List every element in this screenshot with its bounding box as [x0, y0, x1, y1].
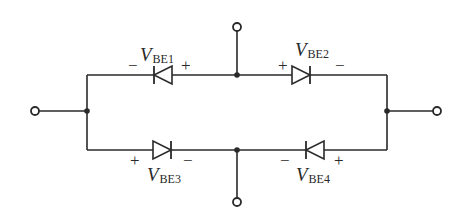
- junction-right: [384, 108, 390, 114]
- terminal-bottom: [233, 198, 241, 206]
- diode-bridge-circuit: VBE1 − + VBE2 + − VBE3 + − VBE4 − +: [0, 0, 466, 224]
- polarity-plus: +: [334, 151, 344, 170]
- polarity-minus: −: [280, 151, 290, 170]
- junction-top: [234, 72, 240, 78]
- diode-vbe2: VBE2 + −: [278, 39, 345, 84]
- terminal-top: [233, 23, 241, 31]
- diode-label: VBE3: [147, 164, 181, 186]
- diode-label: VBE2: [295, 39, 329, 61]
- polarity-minus: −: [128, 56, 138, 75]
- polarity-plus: +: [181, 56, 191, 75]
- diode-label: VBE1: [140, 44, 174, 66]
- diode-label: VBE4: [296, 164, 330, 186]
- terminal-left: [31, 107, 39, 115]
- diode-triangle-icon: [306, 141, 324, 159]
- diode-triangle-icon: [154, 66, 172, 84]
- junctions: [84, 72, 390, 153]
- diode-triangle-icon: [153, 141, 171, 159]
- terminals: [31, 23, 441, 206]
- diode-vbe4: VBE4 − +: [280, 141, 344, 186]
- diode-triangle-icon: [292, 66, 310, 84]
- terminal-right: [433, 107, 441, 115]
- polarity-plus: +: [130, 151, 140, 170]
- wires: [39, 31, 433, 198]
- polarity-minus: −: [183, 151, 193, 170]
- polarity-minus: −: [335, 56, 345, 75]
- polarity-plus: +: [278, 56, 288, 75]
- diode-vbe3: VBE3 + −: [130, 141, 193, 186]
- junction-bottom: [234, 147, 240, 153]
- diode-vbe1: VBE1 − +: [128, 44, 191, 84]
- junction-left: [84, 108, 90, 114]
